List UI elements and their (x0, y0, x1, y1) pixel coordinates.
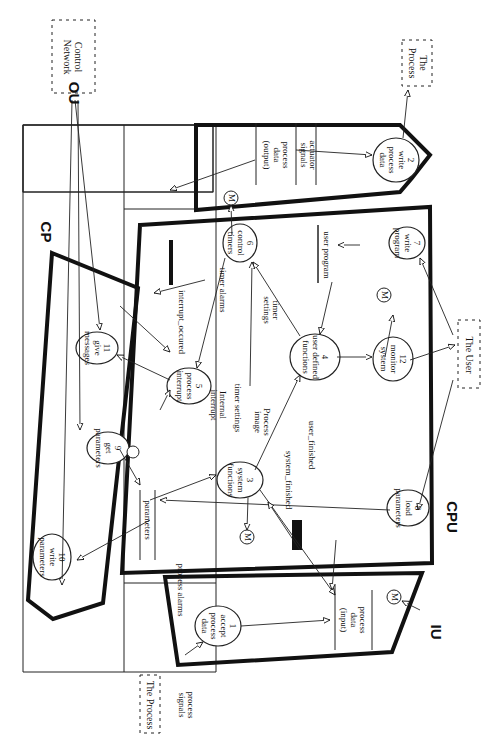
region-label-cp: CP (38, 222, 54, 243)
process-9-label: 9 get parameters (94, 428, 122, 467)
monitor-marker-3: M (242, 533, 251, 541)
store-actuator-signals: actuator signals (299, 141, 318, 170)
external-label-the-user: The User (464, 337, 475, 374)
external-label-the-process-in: The Process (145, 681, 156, 730)
flow-timer-settings-b: timer settings (232, 384, 241, 433)
process-11-label: 11 give messages (83, 331, 111, 365)
flow-internal-interrupt: Internal interrupt (209, 390, 228, 421)
external-label-control-network: Control Network (62, 40, 83, 75)
process-7-label: 7 write program (393, 228, 421, 259)
store-parameters: parameters (142, 500, 151, 539)
flow-interrupt-occured: interrupt_occured (176, 290, 185, 354)
region-label-ou: OU (66, 82, 82, 105)
flow-system-finished: system_finished (283, 451, 292, 510)
diagram-canvas (0, 0, 487, 738)
flow-process-signals: process signals (177, 692, 196, 719)
monitor-marker-1: M (226, 194, 235, 202)
process-3-label: 3 system functions (226, 463, 254, 497)
monitor-marker-4: M (389, 593, 398, 601)
flow-timer-settings-a: timer settings (262, 296, 281, 324)
flow-timer-alarms: timer alarms (217, 267, 226, 312)
process-12-label: 12 monitor system (379, 345, 407, 374)
flow-user-finished: user_finished (306, 421, 315, 470)
flow-process-image: Process image (253, 408, 272, 436)
region-label-iu: IU (428, 625, 444, 640)
process-4-label: 4 user defined functions (301, 335, 329, 379)
region-boundaries (28, 125, 432, 665)
store-process-data-input: process data (input) (339, 607, 367, 634)
monitor-markers (127, 191, 401, 604)
region-label-cpu: CPU (444, 501, 460, 533)
monitor-marker-2: M (379, 291, 388, 299)
process-2-label: 2 write process data (377, 147, 415, 174)
process-10-label: 10 write parameters (38, 537, 66, 576)
process-6-label: 6 control timers (226, 230, 254, 256)
interrupt-bar (169, 240, 173, 285)
flow-process-alarms: process alarms (175, 563, 184, 616)
process-8-label: 8 load parameters (394, 488, 422, 527)
process-5-label: 5 process interrupt (175, 371, 203, 402)
process-1-label: 1 accept process data (199, 613, 237, 640)
store-process-data-output: process data (output) (262, 141, 290, 170)
store-user-program: user program (321, 231, 330, 279)
external-label-the-process-out: The Process (407, 48, 428, 79)
